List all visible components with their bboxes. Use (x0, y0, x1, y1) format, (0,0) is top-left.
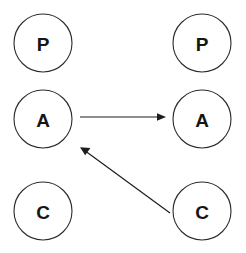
node-left-c[interactable]: C (14, 182, 72, 240)
diagram-canvas: P P A A C C (0, 0, 246, 253)
node-label-left-p: P (37, 34, 50, 55)
edge-right-c-to-left-a[interactable] (80, 147, 170, 213)
node-label-left-c: C (36, 202, 50, 223)
node-right-c[interactable]: C (173, 182, 231, 240)
node-label-right-a: A (195, 110, 209, 131)
node-right-p[interactable]: P (173, 14, 231, 72)
arrow-head-icon (157, 113, 166, 121)
edge-line-diagonal[interactable] (86, 152, 170, 213)
node-label-left-a: A (36, 110, 50, 131)
edge-left-a-to-right-a[interactable] (80, 113, 166, 121)
diagram-svg: P P A A C C (0, 0, 246, 253)
node-left-a[interactable]: A (14, 90, 72, 148)
node-left-p[interactable]: P (14, 14, 72, 72)
node-label-right-p: P (196, 34, 209, 55)
node-label-right-c: C (195, 202, 209, 223)
node-right-a[interactable]: A (173, 90, 231, 148)
